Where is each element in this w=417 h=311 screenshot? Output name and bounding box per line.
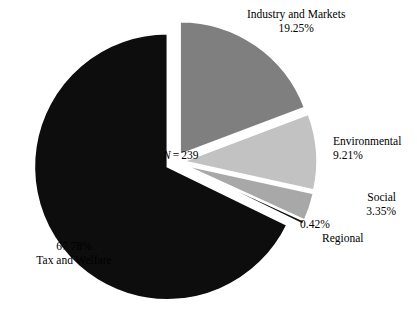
sample-size-annotation: N=239 xyxy=(163,149,198,162)
slice-label-industry-and-markets: Industry and Markets 19.25% xyxy=(247,8,345,35)
slice-label-environmental-percent: 9.21% xyxy=(333,149,401,163)
slice-label-social-name: Social xyxy=(338,191,396,205)
sample-size-equals: = xyxy=(173,149,180,161)
slice-label-social: Social 3.35% xyxy=(338,191,396,218)
slice-label-regional-name: Regional xyxy=(300,232,364,246)
slice-label-regional-percent: 0.42% xyxy=(300,218,364,232)
pie-chart-figure: Industry and Markets 19.25% Environmenta… xyxy=(0,0,417,311)
slice-label-tax-percent: 67.78% xyxy=(10,240,138,254)
sample-size-value: 239 xyxy=(181,149,198,161)
slice-label-social-percent: 3.35% xyxy=(338,205,396,219)
slice-label-environmental-name: Environmental xyxy=(333,135,401,149)
slice-label-environmental: Environmental 9.21% xyxy=(333,135,401,162)
slice-label-industry-name: Industry and Markets xyxy=(247,8,345,22)
slice-label-tax-name: Tax and Welfare xyxy=(10,254,138,268)
sample-size-variable: N xyxy=(163,149,171,161)
slice-label-industry-percent: 19.25% xyxy=(247,22,345,36)
slice-label-tax-and-welfare: 67.78% Tax and Welfare xyxy=(10,240,138,267)
slice-label-regional: 0.42% Regional xyxy=(300,218,364,245)
